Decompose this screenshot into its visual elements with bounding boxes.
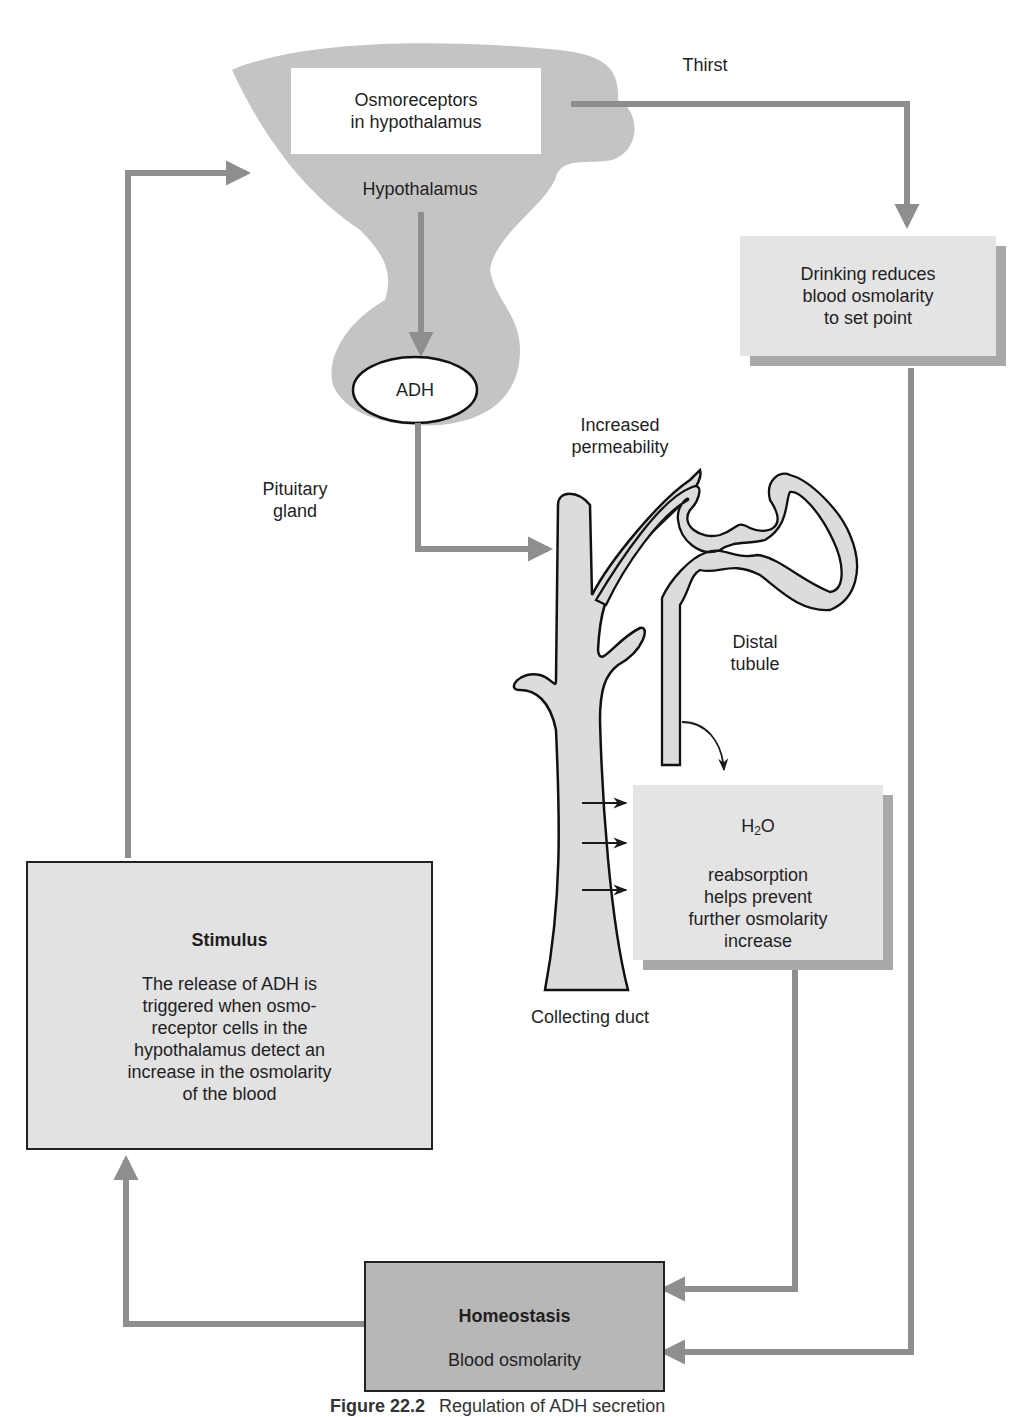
thirst-label: Thirst [660,54,750,76]
h2o-label: reabsorption helps prevent further osmol… [688,865,827,951]
drinking-box: Drinking reduces blood osmolarity to set… [740,236,996,356]
homeostasis-text: Blood osmolarity [448,1350,581,1370]
drinking-label: Drinking reduces blood osmolarity to set… [800,263,935,329]
osmoreceptors-label: Osmoreceptors in hypothalamus [350,89,481,133]
homeostasis-box: Homeostasis Blood osmolarity [364,1261,665,1392]
arrow-distal-to-h2o [682,722,724,770]
arrow-adh-to-collecting-duct [418,423,548,549]
homeostasis-title: Homeostasis [448,1305,581,1327]
arrow-stimulus-to-hypothalamus [128,173,246,858]
stimulus-box: Stimulus The release of ADH is triggered… [26,861,433,1150]
h2o-formula: H2O [688,815,827,842]
distal-tubule-label: Distal tubule [700,631,810,675]
increased-permeability-label: Increased permeability [540,414,700,458]
adh-label: ADH [375,379,455,401]
figure-number: Figure 22.2 [330,1396,425,1416]
stimulus-text: The release of ADH is triggered when osm… [127,974,331,1104]
stimulus-title: Stimulus [127,929,331,951]
pituitary-gland-label: Pituitary gland [240,478,350,522]
arrow-h2o-to-homeostasis [665,970,795,1289]
arrow-homeostasis-to-stimulus [126,1160,364,1324]
h2o-reabsorption-box: H2O reabsorption helps prevent further o… [633,785,883,960]
hypothalamus-label: Hypothalamus [330,178,510,200]
collecting-duct-label: Collecting duct [500,1006,680,1028]
figure-caption-text: Regulation of ADH secretion [439,1396,665,1416]
osmoreceptors-box: Osmoreceptors in hypothalamus [291,68,541,154]
distal-tubule-shape [596,474,857,765]
figure-caption: Figure 22.2Regulation of ADH secretion [330,1396,665,1417]
